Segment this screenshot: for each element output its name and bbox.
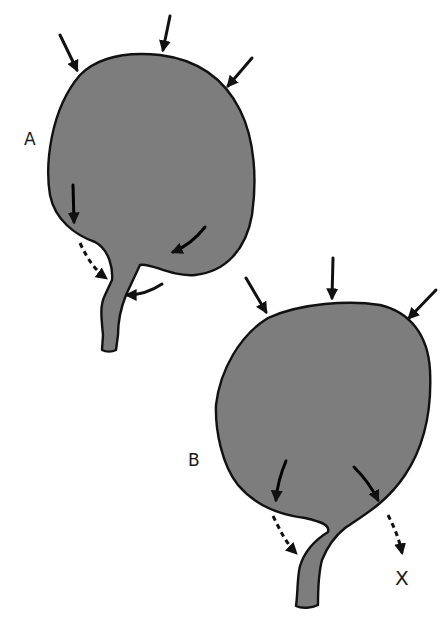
pressure-arrow-b-2 [332, 258, 333, 298]
leak-arrow-b-left [273, 516, 296, 553]
internal-arrow-a-1 [73, 185, 74, 222]
panel-label-b: B [188, 450, 200, 470]
pressure-arrow-a-3 [228, 58, 252, 86]
pressure-arrow-a-2 [163, 16, 170, 50]
bladder-b [216, 303, 430, 608]
diagram-canvas: A B X [0, 0, 446, 624]
pressure-arrow-b-3 [409, 290, 436, 318]
panel-a: A [24, 16, 254, 352]
pressure-arrow-a-1 [60, 35, 77, 70]
panel-b: B X [188, 258, 436, 608]
pressure-arrow-b-1 [246, 278, 266, 312]
leak-arrow-b-right [388, 515, 402, 553]
x-mark-label: X [395, 566, 409, 590]
flow-arrow-a [127, 284, 162, 295]
bladder-a [48, 54, 254, 351]
panel-label-a: A [24, 129, 36, 149]
